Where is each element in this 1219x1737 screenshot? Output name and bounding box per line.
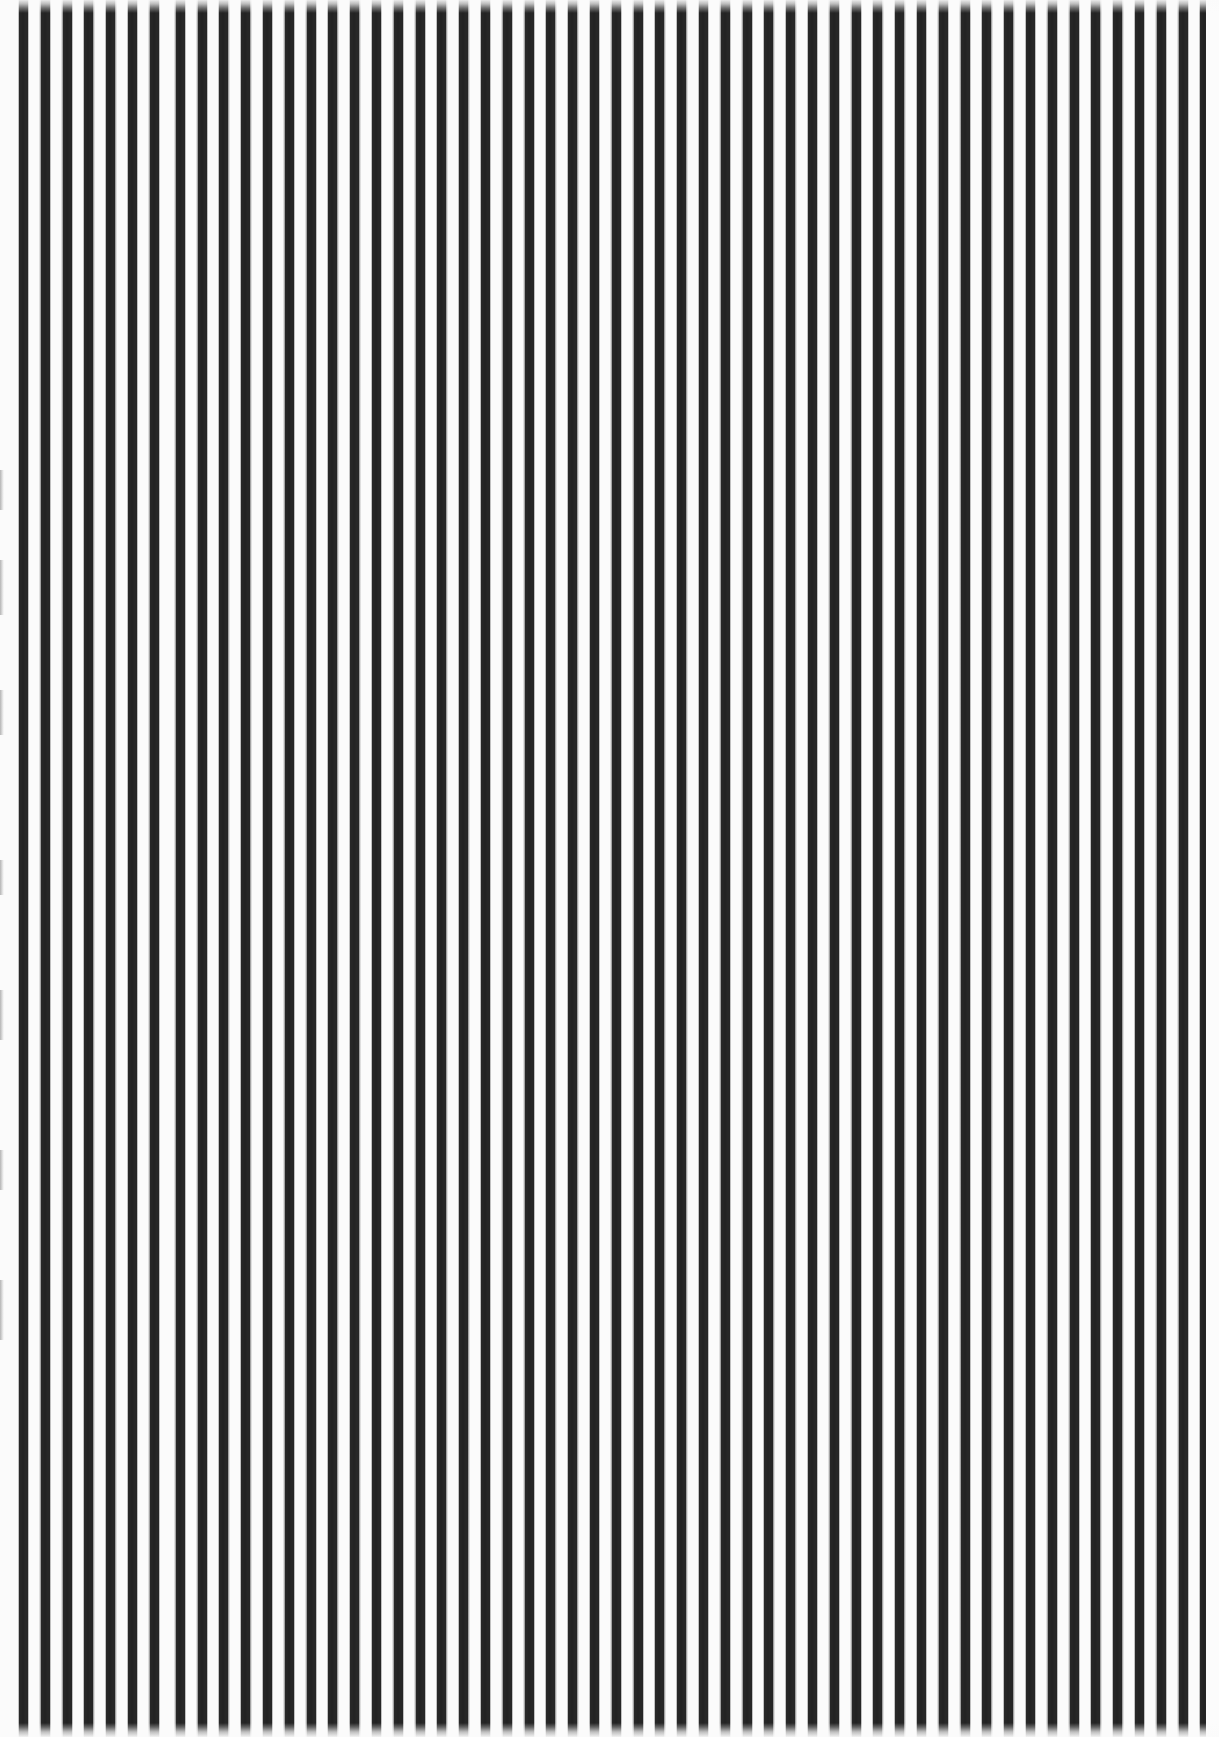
stripe-bar bbox=[634, 0, 643, 1737]
stripe-bar bbox=[1004, 0, 1013, 1737]
stripe-bar bbox=[1157, 0, 1166, 1737]
stripe-bar bbox=[1113, 0, 1122, 1737]
stripe-bar bbox=[307, 0, 316, 1737]
stripe-bar bbox=[198, 0, 207, 1737]
stripe-bar bbox=[852, 0, 861, 1737]
stripe-bar bbox=[612, 0, 621, 1737]
stripe-bar bbox=[1179, 0, 1188, 1737]
stripe-bar bbox=[873, 0, 882, 1737]
stripe-bar bbox=[1026, 0, 1035, 1737]
stripe-bar bbox=[1200, 0, 1209, 1737]
stripe-bar bbox=[655, 0, 664, 1737]
stripe-bar bbox=[677, 0, 686, 1737]
stripe-bar bbox=[721, 0, 730, 1737]
stripe-bar bbox=[128, 0, 137, 1737]
stripe-bar bbox=[503, 0, 512, 1737]
stripe-bar bbox=[263, 0, 272, 1737]
stripe-bar bbox=[84, 0, 93, 1737]
stripe-bar bbox=[106, 0, 115, 1737]
stripe-bar bbox=[1135, 0, 1144, 1737]
stripe-bar bbox=[372, 0, 381, 1737]
stripe-bar bbox=[437, 0, 446, 1737]
stripe-bar bbox=[939, 0, 948, 1737]
stripe-bar bbox=[176, 0, 185, 1737]
stripe-bar bbox=[63, 0, 72, 1737]
stripe-bar bbox=[830, 0, 839, 1737]
stripe-bar bbox=[525, 0, 534, 1737]
stripe-bar bbox=[1091, 0, 1100, 1737]
stripe-bar bbox=[743, 0, 752, 1737]
stripe-bar bbox=[546, 0, 555, 1737]
stripe-bar bbox=[895, 0, 904, 1737]
stripe-bar bbox=[416, 0, 425, 1737]
stripe-bar bbox=[786, 0, 795, 1737]
stripe-bar bbox=[350, 0, 359, 1737]
stripe-bar bbox=[808, 0, 817, 1737]
stripe-bar bbox=[982, 0, 991, 1737]
stripe-bar bbox=[328, 0, 337, 1737]
stripe-bar bbox=[764, 0, 773, 1737]
stripe-bar bbox=[917, 0, 926, 1737]
stripe-bar bbox=[394, 0, 403, 1737]
stripe-bar bbox=[241, 0, 250, 1737]
stripe-bar bbox=[1048, 0, 1057, 1737]
stripe-bar bbox=[590, 0, 599, 1737]
stripe-bar bbox=[219, 0, 228, 1737]
stripe-bar bbox=[699, 0, 708, 1737]
stripe-bar bbox=[961, 0, 970, 1737]
stripe-pattern-image bbox=[0, 0, 1219, 1737]
stripe-bar bbox=[1070, 0, 1079, 1737]
stripe-bar bbox=[41, 0, 50, 1737]
stripe-bar bbox=[19, 0, 28, 1737]
stripe-bar bbox=[285, 0, 294, 1737]
stripe-bar bbox=[459, 0, 468, 1737]
stripe-bar bbox=[150, 0, 159, 1737]
stripe-bar bbox=[568, 0, 577, 1737]
stripe-bar bbox=[481, 0, 490, 1737]
